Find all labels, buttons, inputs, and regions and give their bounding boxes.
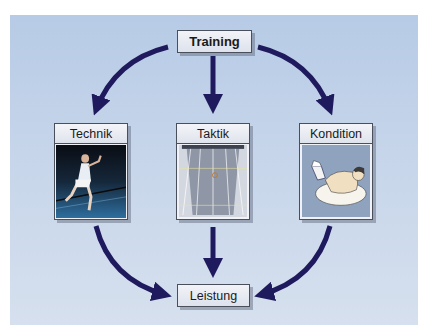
training-label: Training (189, 34, 240, 49)
leistung-node: Leistung (177, 284, 250, 307)
arrow-training-technik (96, 47, 168, 110)
badminton-player-image (56, 145, 126, 218)
training-node: Training (177, 30, 252, 53)
taktik-label: Taktik (197, 127, 229, 141)
arrow-kondition-leistung (260, 226, 330, 295)
badminton-court-image (179, 145, 247, 217)
technik-card: Technik (54, 123, 128, 220)
fitness-exercise-image (302, 145, 370, 217)
arrow-training-kondition (258, 47, 330, 110)
technik-label: Technik (70, 127, 112, 141)
kondition-card: Kondition (299, 123, 373, 220)
leistung-label: Leistung (190, 289, 237, 303)
arrow-technik-leistung (96, 226, 166, 295)
taktik-card: Taktik (176, 123, 250, 220)
kondition-label: Kondition (310, 127, 362, 141)
